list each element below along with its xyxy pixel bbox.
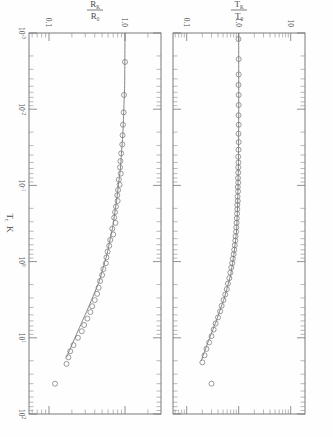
data-point <box>79 329 84 334</box>
panel-top-data-points <box>200 37 241 387</box>
panel-bottom-data-points <box>53 59 128 386</box>
panel-top-y-minor-ticks <box>175 33 288 414</box>
xtick-0: 10-3 <box>17 27 27 39</box>
data-point <box>90 304 95 309</box>
panel-bottom-ytick-1: 0.1 <box>44 18 53 28</box>
data-point <box>88 310 93 315</box>
data-point <box>115 198 120 203</box>
xlabel-unit: K <box>5 226 15 233</box>
xtick-1: 10-2 <box>17 103 27 115</box>
chart-figure: 10 1.0 0.1 TK T0 <box>0 0 333 437</box>
data-point <box>118 171 123 176</box>
svg-text:R0: R0 <box>91 11 100 22</box>
xtick-2: 10-1 <box>17 179 27 191</box>
data-point <box>209 381 214 386</box>
panel-top-ytick-0: 10 <box>286 20 295 28</box>
data-point <box>75 335 80 340</box>
data-point <box>53 381 58 386</box>
panel-bottom-frame <box>29 33 161 414</box>
rotation-wrapper: 10 1.0 0.1 TK T0 <box>0 0 333 437</box>
panel-bottom-ytick-0: 1.0 <box>120 18 129 28</box>
svg-text:TK: TK <box>234 0 244 10</box>
ybot-num-sub: K <box>96 4 100 10</box>
panel-top-fit-curve <box>201 33 239 361</box>
data-point <box>100 273 105 278</box>
data-point <box>200 360 205 365</box>
panel-bottom-y-tick-labels: 1.0 0.1 <box>44 18 129 28</box>
svg-text:T0: T0 <box>235 11 244 22</box>
panel-bottom: 1.0 0.1 RK R0 <box>29 0 161 414</box>
x-axis-tick-labels: 10-310-210-1100101102 <box>17 27 27 419</box>
data-point <box>85 316 90 321</box>
panel-bottom-y-minor-ticks <box>32 33 148 414</box>
data-point <box>207 340 212 345</box>
ytop-num-sub: K <box>240 4 244 10</box>
ybot-den-sub: 0 <box>97 16 100 22</box>
panel-bottom-x-minor-ticks <box>29 56 161 411</box>
data-point <box>117 182 122 187</box>
data-point <box>92 298 97 303</box>
panel-top: 10 1.0 0.1 TK T0 <box>173 0 305 414</box>
panel-bottom-fit-curve <box>67 33 125 357</box>
ytop-den-sub: 0 <box>240 16 243 22</box>
data-point <box>82 323 87 328</box>
xtick-5: 102 <box>17 409 27 420</box>
svg-text:RK: RK <box>90 0 100 10</box>
panel-bottom-y-axis-label: RK R0 <box>87 0 103 22</box>
figure-canvas: 10 1.0 0.1 TK T0 <box>0 0 333 437</box>
x-axis-label: Tc K <box>4 214 15 233</box>
svg-text:Tc K: Tc K <box>4 214 15 233</box>
panel-bottom-x-major-ticks <box>29 33 161 414</box>
data-point <box>209 334 214 339</box>
data-point <box>95 291 100 296</box>
panel-top-ytick-2: 0.1 <box>182 18 191 28</box>
xtick-4: 101 <box>17 333 27 344</box>
xtick-3: 100 <box>17 257 27 268</box>
data-point <box>64 361 69 366</box>
